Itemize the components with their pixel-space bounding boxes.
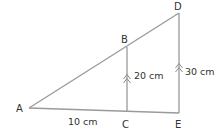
measurement-AC: 10 cm [68,116,98,127]
segment-AD [29,13,179,108]
segment-AE [29,108,179,113]
point-label-C: C [122,119,129,130]
measurement-BC: 20 cm [134,70,164,81]
point-label-B: B [121,34,128,45]
point-label-E: E [175,119,181,130]
similar-triangles-diagram: A B C D E 10 cm 20 cm 30 cm [0,0,223,133]
point-label-A: A [16,103,23,114]
measurement-DE: 30 cm [185,66,215,77]
point-label-D: D [174,1,182,12]
